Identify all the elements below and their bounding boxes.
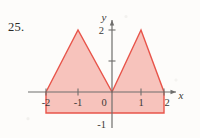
x-axis-label: x	[178, 89, 184, 101]
x-tick-label-neg1: -1	[74, 97, 83, 108]
y-tick-label-two: 2	[99, 25, 104, 36]
x-tick-label-zero: 0	[101, 97, 106, 108]
figure-container: 25. -2 -1 0 1 2 2 -1 y x	[0, 0, 200, 138]
plot-svg: -2 -1 0 1 2 2 -1 y x	[0, 0, 200, 138]
x-axis-arrow-icon	[171, 90, 177, 94]
x-tick-label-one: 1	[138, 97, 143, 108]
x-tick-label-two: 2	[164, 97, 169, 108]
x-tick-label-neg2: -2	[42, 97, 51, 108]
y-tick-label-neg1: -1	[97, 119, 106, 130]
y-axis-arrow-icon	[110, 20, 114, 26]
y-axis-label: y	[101, 11, 107, 23]
